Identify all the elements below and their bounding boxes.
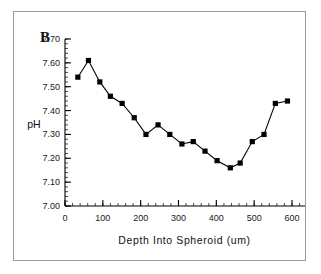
data-point-marker <box>191 139 196 144</box>
x-axis <box>65 200 305 206</box>
y-tick-label: 7.00 <box>42 201 60 211</box>
x-tick-label: 0 <box>62 213 67 223</box>
series-markers <box>75 58 290 171</box>
data-point-marker <box>167 132 172 137</box>
y-tick-label: 7.70 <box>42 34 60 44</box>
data-point-marker <box>120 101 125 106</box>
data-point-marker <box>202 149 207 154</box>
y-axis <box>65 39 71 206</box>
y-axis-title: pH <box>27 118 40 130</box>
data-point-marker <box>261 132 266 137</box>
figure-panel: B 7.007.107.207.307.407.507.607.70 01002… <box>13 11 306 261</box>
data-point-marker <box>155 122 160 127</box>
data-point-marker <box>285 98 290 103</box>
y-tick-label: 7.30 <box>42 129 60 139</box>
x-tick-label: 100 <box>95 213 110 223</box>
ph-depth-line-chart: 7.007.107.207.307.407.507.607.70 0100200… <box>14 12 307 262</box>
y-tick-label: 7.50 <box>42 82 60 92</box>
x-axis-tick-labels: 0100200300400500600 <box>62 213 299 223</box>
x-tick-label: 400 <box>209 213 224 223</box>
data-point-marker <box>238 160 243 165</box>
x-tick-label: 600 <box>284 213 299 223</box>
x-tick-label: 500 <box>247 213 262 223</box>
x-tick-label: 200 <box>133 213 148 223</box>
x-axis-title: Depth Into Spheroid (um) <box>118 234 250 246</box>
y-tick-label: 7.40 <box>42 106 60 116</box>
x-tick-label: 300 <box>171 213 186 223</box>
data-point-marker <box>86 58 91 63</box>
data-point-marker <box>228 165 233 170</box>
series-line <box>78 60 288 167</box>
data-point-marker <box>214 158 219 163</box>
data-point-marker <box>75 75 80 80</box>
data-point-marker <box>97 79 102 84</box>
y-axis-tick-labels: 7.007.107.207.307.407.507.607.70 <box>42 34 60 211</box>
data-point-marker <box>108 94 113 99</box>
y-tick-label: 7.10 <box>42 177 60 187</box>
y-tick-label: 7.20 <box>42 153 60 163</box>
data-point-marker <box>143 132 148 137</box>
data-point-marker <box>179 141 184 146</box>
data-point-marker <box>132 115 137 120</box>
data-point-marker <box>250 139 255 144</box>
data-point-marker <box>273 101 278 106</box>
y-tick-label: 7.60 <box>42 58 60 68</box>
